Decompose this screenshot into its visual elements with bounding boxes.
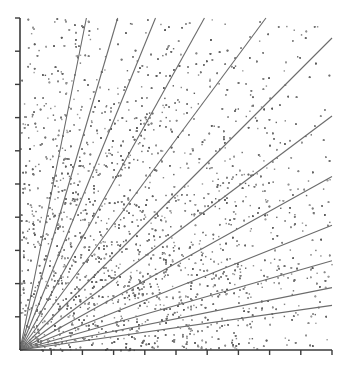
scatter-plot-canvas (0, 0, 344, 372)
scatter-plot-figure (0, 0, 344, 372)
